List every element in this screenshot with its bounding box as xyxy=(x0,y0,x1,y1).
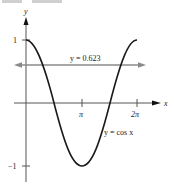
y-tick-label-1: 1 xyxy=(13,36,17,45)
y-axis-label: y xyxy=(23,7,28,16)
cosine-diagram: y x 1 −1 π 2π y = 0.623 y = cos x xyxy=(0,0,174,186)
hline-right-arrow-icon xyxy=(138,62,146,67)
clipped-header-fragment xyxy=(32,0,62,3)
x-axis-arrow-icon xyxy=(152,101,161,106)
y-tick-label-neg1: −1 xyxy=(8,162,17,171)
clipped-header-fragment xyxy=(2,0,22,3)
x-tick-label-pi: π xyxy=(79,110,84,119)
y-axis-arrow-icon xyxy=(24,17,29,25)
curve-label: y = cos x xyxy=(104,128,133,137)
x-tick-label-2pi: 2π xyxy=(131,110,140,119)
hline-left-arrow-icon xyxy=(14,62,22,67)
x-axis-label: x xyxy=(163,99,168,108)
hline-label: y = 0.623 xyxy=(70,54,101,63)
